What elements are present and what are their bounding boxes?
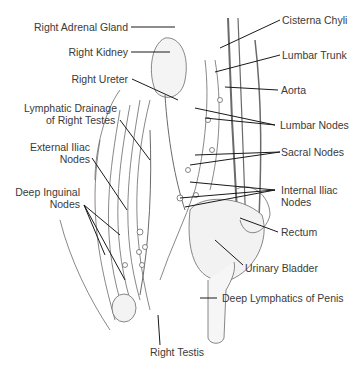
label-right-adrenal-gland: Right Adrenal Gland [10, 21, 128, 33]
label-internal-iliac-line1: Internal Iliac [281, 184, 338, 196]
label-lumbar-nodes: Lumbar Nodes [280, 119, 349, 131]
label-right-ureter: Right Ureter [10, 73, 128, 85]
label-rectum: Rectum [281, 226, 317, 238]
label-right-testis: Right Testis [150, 346, 204, 358]
label-urinary-bladder: Urinary Bladder [245, 262, 318, 274]
label-external-iliac-line1: External Iliac [10, 141, 90, 153]
label-sacral-nodes: Sacral Nodes [281, 146, 344, 158]
label-cisterna-chyli: Cisterna Chyli [282, 14, 347, 26]
label-deep-lymphatics-of-penis: Deep Lymphatics of Penis [222, 292, 344, 304]
label-lymphatic-drainage-line2: of Right Testes [46, 114, 115, 126]
label-internal-iliac-line2: Nodes [281, 196, 311, 208]
label-lymphatic-drainage-line1: Lymphatic Drainage [24, 102, 117, 114]
label-lumbar-trunk: Lumbar Trunk [282, 49, 347, 61]
anatomy-diagram: Right Adrenal Gland Right Kidney Right U… [0, 0, 360, 368]
label-deep-inguinal-line1: Deep Inguinal [4, 186, 80, 198]
label-external-iliac-line2: Nodes [10, 153, 90, 165]
label-right-kidney: Right Kidney [10, 46, 128, 58]
label-deep-inguinal-line2: Nodes [4, 198, 80, 210]
label-aorta: Aorta [281, 84, 306, 96]
